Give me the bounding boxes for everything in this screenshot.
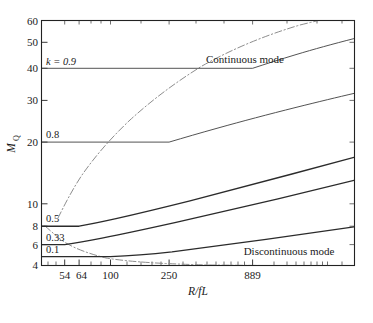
k-01-label: 0.1 [46,244,59,255]
x-tick-label: 100 [102,269,119,281]
x-tick-labels: 54 64 100 250 889 [59,269,261,281]
k-033-label: 0.33 [46,232,64,243]
conduction-mode-chart: 60 50 40 30 20 10 8 6 4 M Q [0,0,373,323]
y-tick-label: 60 [27,15,39,27]
y-tick-label: 4 [33,259,39,271]
k-08-label: 0.8 [46,129,59,140]
critical-boundary-upper [58,13,354,218]
curve-k-0-8 [42,93,354,142]
k-05-label: 0.5 [46,213,59,224]
y-axis-title-sub: Q [12,135,21,141]
y-axis-ticks [42,21,355,266]
y-axis-title: M Q [5,135,21,154]
continuous-mode-label: Continuous mode [206,53,284,65]
y-axis-title-main: M [5,142,17,154]
y-tick-label: 30 [27,94,39,106]
y-tick-label: 8 [33,220,39,232]
discontinuous-mode-label: Discontinuous mode [244,245,335,257]
y-tick-label: 6 [33,239,39,251]
x-axis-ticks [48,21,342,266]
x-tick-label: 889 [244,269,261,281]
plot-frame [42,21,355,266]
x-tick-label: 64 [76,269,88,281]
y-tick-labels: 60 50 40 30 20 10 8 6 4 [27,15,39,272]
curve-k-0-33 [42,180,354,244]
x-axis-title: R/fL [187,285,208,298]
curve-k-0-9 [42,39,354,69]
y-tick-label: 10 [27,198,39,210]
y-tick-label: 50 [27,36,39,48]
k-series-label: k = 0.9 [46,56,77,67]
y-tick-label: 40 [27,62,39,74]
chart-figure: 60 50 40 30 20 10 8 6 4 M Q [0,0,373,323]
x-tick-label: 250 [161,269,178,281]
series-inline-labels: k = 0.9 0.8 0.5 0.33 0.1 [46,56,77,255]
y-tick-label: 20 [27,136,39,148]
x-tick-label: 54 [59,269,71,281]
